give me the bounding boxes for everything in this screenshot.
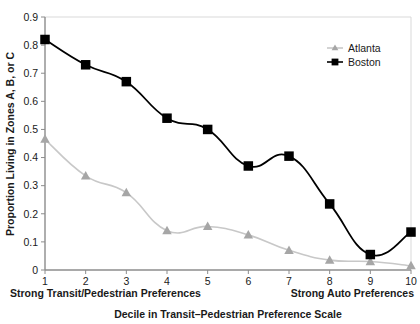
data-point-atlanta-1 <box>40 134 50 143</box>
right-end-label: Strong Auto Preferences <box>291 287 414 299</box>
y-tick-label: 0.8 <box>23 39 38 51</box>
series-line-atlanta <box>45 139 411 266</box>
legend-label-atlanta: Atlanta <box>348 42 381 54</box>
data-point-atlanta-2 <box>81 171 91 180</box>
series-layer <box>40 35 416 270</box>
x-tick-label: 1 <box>42 275 48 287</box>
x-tick-label: 4 <box>164 275 170 287</box>
data-point-boston-7 <box>284 151 294 161</box>
y-tick-label: 0.6 <box>23 95 38 107</box>
x-tick-label: 7 <box>286 275 292 287</box>
data-point-boston-5 <box>203 125 213 135</box>
y-tick-label: 0.9 <box>23 11 38 23</box>
chart-container: 00.10.20.30.40.50.60.70.80.9 12345678910… <box>0 0 420 324</box>
data-point-boston-2 <box>81 60 91 70</box>
data-point-atlanta-4 <box>162 226 172 235</box>
y-tick-label: 0.2 <box>23 208 38 220</box>
y-tick-label: 0 <box>32 264 38 276</box>
x-axis-title: Decile in Transit–Pedestrian Preference … <box>114 308 342 320</box>
y-tick-label: 0.7 <box>23 67 38 79</box>
legend-square-icon-boston <box>332 59 339 66</box>
y-axis-ticks: 00.10.20.30.40.50.60.70.80.9 <box>23 11 45 276</box>
line-chart: 00.10.20.30.40.50.60.70.80.9 12345678910… <box>0 0 420 324</box>
chart-legend: Atlanta Boston <box>327 42 381 68</box>
data-point-boston-8 <box>325 199 335 209</box>
y-tick-label: 0.1 <box>23 236 38 248</box>
data-point-boston-4 <box>162 113 172 123</box>
y-tick-label: 0.5 <box>23 123 38 135</box>
x-tick-label: 8 <box>327 275 333 287</box>
x-tick-label: 6 <box>245 275 251 287</box>
series-line-boston <box>45 39 411 255</box>
data-point-atlanta-3 <box>122 188 131 197</box>
legend-label-boston: Boston <box>348 56 381 68</box>
x-tick-label: 9 <box>367 275 373 287</box>
data-point-boston-3 <box>122 77 132 87</box>
y-tick-label: 0.4 <box>23 151 38 163</box>
x-tick-label: 3 <box>123 275 129 287</box>
data-point-boston-10 <box>406 227 416 237</box>
x-tick-label: 10 <box>405 275 417 287</box>
left-end-label: Strong Transit/Pedestrian Preferences <box>10 287 201 299</box>
x-axis-ticks: 12345678910 <box>42 270 417 287</box>
data-point-boston-9 <box>366 250 376 259</box>
y-tick-label: 0.3 <box>23 179 38 191</box>
data-point-boston-1 <box>40 35 50 45</box>
series-atlanta <box>40 134 416 269</box>
x-tick-label: 5 <box>205 275 211 287</box>
series-boston <box>40 35 416 260</box>
x-tick-label: 2 <box>83 275 89 287</box>
data-point-boston-6 <box>244 161 254 171</box>
y-axis-title: Proportion Living in Zones A, B, or C <box>4 52 16 236</box>
